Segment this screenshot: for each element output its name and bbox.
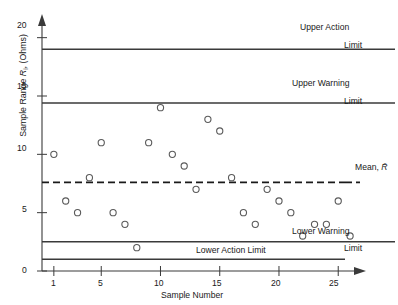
data-point (146, 140, 152, 146)
data-point (134, 245, 140, 251)
x-tick-label-5: 5 (98, 278, 103, 288)
upper-warning-limit-label-line1: Upper Warning (292, 78, 349, 88)
data-point (264, 186, 270, 192)
data-point (276, 198, 282, 204)
data-point (169, 151, 175, 157)
mean-label-text: Mean, (355, 162, 379, 172)
x-axis-arrow (354, 267, 366, 275)
mean-label-symbol: R̄ (381, 162, 387, 172)
lower-warning-limit-label-line1: Lower Warning (292, 226, 349, 236)
upper-action-limit-label-line2: Limit (344, 40, 362, 50)
y-axis-title-units: (Ohms) (18, 34, 28, 63)
lower-warning-limit-label-line2: Limit (344, 243, 362, 253)
y-tick-label-5: 5 (22, 204, 27, 214)
data-point (193, 186, 199, 192)
x-axis-title: Sample Number (161, 290, 223, 300)
data-point (157, 105, 163, 111)
upper-action-limit-label-line1: Upper Action (300, 22, 349, 32)
data-point (63, 198, 69, 204)
data-point (98, 140, 104, 146)
data-point (205, 116, 211, 122)
x-axis (42, 267, 366, 275)
data-point (335, 198, 341, 204)
data-point (252, 221, 258, 227)
data-point (74, 210, 80, 216)
y-axis-title: Sample Range Ri, (Ohms) (18, 11, 29, 161)
upper-warning-limit-label-line2: Limit (344, 96, 362, 106)
x-tick-label-25: 25 (329, 278, 339, 288)
x-tick-label-1: 1 (51, 278, 56, 288)
data-point (51, 151, 57, 157)
y-axis-title-symbol: R (18, 70, 28, 76)
y-axis (38, 14, 46, 271)
y-tick-label-0: 0 (22, 265, 27, 275)
x-tick-label-10: 10 (154, 278, 164, 288)
data-point (181, 163, 187, 169)
data-point (288, 210, 294, 216)
data-point (86, 175, 92, 181)
mean-label: Mean, R̄ (355, 162, 388, 172)
data-point (240, 210, 246, 216)
data-point (122, 221, 128, 227)
data-point (217, 128, 223, 134)
x-tick-label-15: 15 (212, 278, 222, 288)
y-axis-title-prefix: Sample Range (18, 79, 28, 137)
y-axis-title-subscript: i (22, 68, 29, 69)
chart-canvas (0, 0, 398, 305)
control-chart: 0 5 10 15 20 1 5 10 15 20 25 Sample Numb… (0, 0, 398, 305)
x-tick-label-20: 20 (271, 278, 281, 288)
y-axis-arrow (38, 14, 46, 26)
data-point (110, 210, 116, 216)
lower-action-limit-label: Lower Action Limit (196, 245, 266, 255)
data-point (228, 175, 234, 181)
